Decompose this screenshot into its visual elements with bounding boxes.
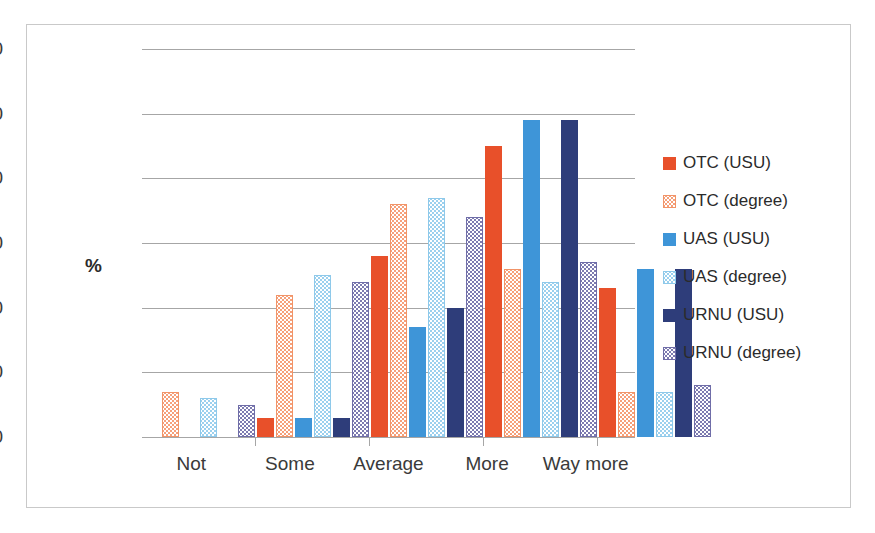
x-tick-label-more: More bbox=[438, 453, 537, 475]
bar bbox=[523, 120, 540, 437]
gridline-0 bbox=[142, 437, 635, 438]
y-tick-label-50: 50 bbox=[0, 103, 3, 125]
category-separator bbox=[369, 437, 370, 446]
legend-swatch-icon bbox=[663, 157, 676, 170]
bar bbox=[162, 392, 179, 437]
legend-item-otc-degree[interactable]: OTC (degree) bbox=[663, 182, 853, 220]
bar bbox=[542, 282, 559, 437]
bar bbox=[599, 288, 616, 437]
bar bbox=[694, 385, 711, 437]
legend-label: OTC (degree) bbox=[683, 191, 788, 211]
category-separator bbox=[255, 437, 256, 446]
y-tick-label-40: 40 bbox=[0, 167, 3, 189]
category-separator bbox=[483, 437, 484, 446]
x-axis-ticks: NotSomeAverageMoreWay more bbox=[142, 453, 635, 475]
bar bbox=[295, 418, 312, 437]
bar-groups bbox=[142, 49, 635, 437]
bar bbox=[276, 295, 293, 437]
bar bbox=[238, 405, 255, 437]
bar bbox=[352, 282, 369, 437]
x-tick-label-not: Not bbox=[142, 453, 241, 475]
y-axis-title: % bbox=[85, 255, 102, 277]
bar bbox=[447, 308, 464, 437]
bar bbox=[390, 204, 407, 437]
legend-item-uas-degree[interactable]: UAS (degree) bbox=[663, 258, 853, 296]
bar bbox=[580, 262, 597, 437]
x-tick-label-some: Some bbox=[241, 453, 340, 475]
bar-group-average bbox=[370, 49, 484, 437]
legend-label: URNU (USU) bbox=[683, 305, 784, 325]
legend-item-urnu-degree[interactable]: URNU (degree) bbox=[663, 334, 853, 372]
legend-swatch-icon bbox=[663, 309, 676, 322]
bar bbox=[333, 418, 350, 437]
legend-item-otc-usu[interactable]: OTC (USU) bbox=[663, 144, 853, 182]
bar-group-some bbox=[256, 49, 370, 437]
legend-label: OTC (USU) bbox=[683, 153, 771, 173]
bar bbox=[656, 392, 673, 437]
category-separator bbox=[597, 437, 598, 446]
legend-label: UAS (degree) bbox=[683, 267, 787, 287]
legend-swatch-icon bbox=[663, 347, 676, 360]
bar bbox=[561, 120, 578, 437]
bar bbox=[466, 217, 483, 437]
bar-group-not bbox=[142, 49, 256, 437]
legend-swatch-icon bbox=[663, 195, 676, 208]
bar bbox=[428, 198, 445, 437]
y-tick-label-60: 60 bbox=[0, 38, 3, 60]
bar-group-more bbox=[484, 49, 598, 437]
chart-figure: % 0102030405060 NotSomeAverageMoreWay mo… bbox=[26, 24, 851, 508]
bar bbox=[371, 256, 388, 437]
bar bbox=[257, 418, 274, 437]
plot-area: 0102030405060 NotSomeAverageMoreWay more bbox=[142, 49, 635, 437]
legend-swatch-icon bbox=[663, 271, 676, 284]
legend-item-urnu-usu[interactable]: URNU (USU) bbox=[663, 296, 853, 334]
x-tick-label-way-more: Way more bbox=[536, 453, 635, 475]
y-tick-label-0: 0 bbox=[0, 426, 3, 448]
legend-item-uas-usu[interactable]: UAS (USU) bbox=[663, 220, 853, 258]
bar bbox=[314, 275, 331, 437]
bar bbox=[637, 269, 654, 437]
legend-swatch-icon bbox=[663, 233, 676, 246]
bar bbox=[409, 327, 426, 437]
legend-label: URNU (degree) bbox=[683, 343, 801, 363]
bar bbox=[200, 398, 217, 437]
y-tick-label-10: 10 bbox=[0, 361, 3, 383]
y-tick-label-30: 30 bbox=[0, 232, 3, 254]
bar bbox=[504, 269, 521, 437]
chart-legend: OTC (USU)OTC (degree)UAS (USU)UAS (degre… bbox=[663, 144, 853, 372]
legend-label: UAS (USU) bbox=[683, 229, 770, 249]
bar bbox=[485, 146, 502, 437]
x-tick-label-average: Average bbox=[339, 453, 438, 475]
y-tick-label-20: 20 bbox=[0, 297, 3, 319]
bar bbox=[618, 392, 635, 437]
